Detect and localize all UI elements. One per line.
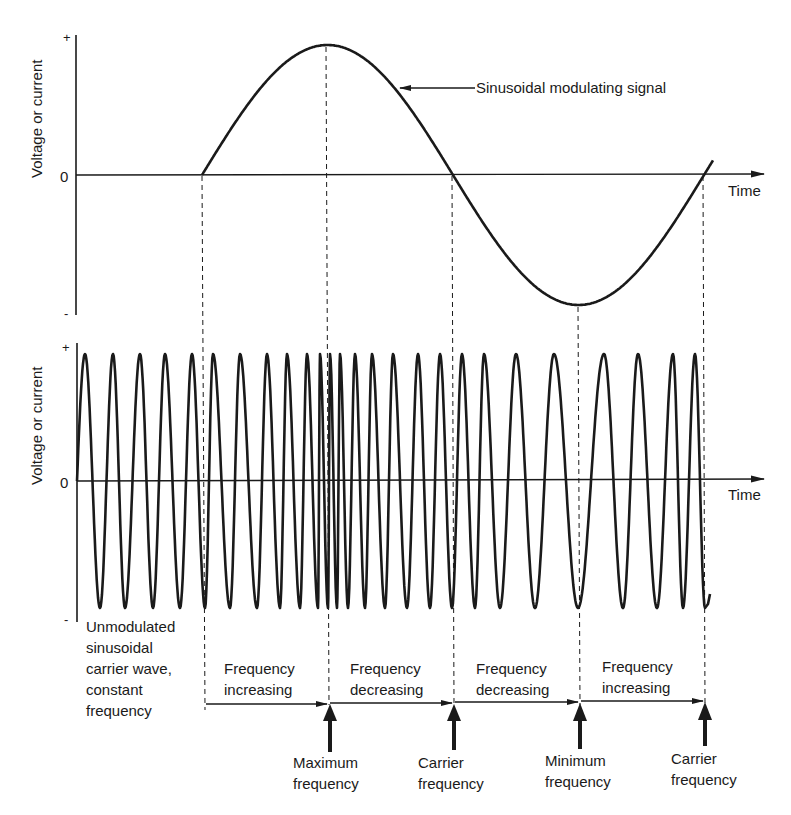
bottom-y-axis-label: Voltage or current bbox=[28, 366, 45, 485]
segment-labels: Frequency increasing Frequency decreasin… bbox=[224, 658, 673, 698]
segment-arrows bbox=[206, 701, 703, 704]
note-line-1: Unmodulated bbox=[86, 618, 175, 635]
marker-labels: Maximum frequency Carrier frequency Mini… bbox=[293, 750, 737, 792]
marker-arrows bbox=[323, 702, 712, 752]
unmodulated-note: Unmodulated sinusoidal carrier wave, con… bbox=[86, 618, 175, 719]
segment-1-line-2: increasing bbox=[224, 681, 292, 698]
marker-2-line-2: frequency bbox=[418, 775, 484, 792]
segment-1-line-1: Frequency bbox=[224, 660, 295, 677]
segment-4-line-2: increasing bbox=[602, 679, 670, 696]
top-tick-minus: - bbox=[64, 306, 68, 321]
top-y-axis-label: Voltage or current bbox=[28, 59, 45, 178]
annotation-label: Sinusoidal modulating signal bbox=[476, 79, 666, 96]
top-tick-plus: + bbox=[63, 30, 71, 45]
guide-line-1 bbox=[202, 176, 205, 710]
guide-line-4 bbox=[578, 307, 580, 705]
note-line-5: frequency bbox=[86, 702, 152, 719]
note-line-3: carrier wave, bbox=[86, 660, 172, 677]
marker-1-line-1: Maximum bbox=[293, 754, 358, 771]
top-x-axis bbox=[76, 174, 764, 175]
marker-1-line-2: frequency bbox=[293, 775, 359, 792]
guide-lines bbox=[202, 47, 705, 710]
bottom-tick-zero: 0 bbox=[60, 474, 68, 491]
bottom-tick-minus: - bbox=[64, 612, 68, 627]
segment-2-line-2: decreasing bbox=[350, 681, 423, 698]
bottom-x-axis-label: Time bbox=[728, 486, 761, 503]
marker-arrow-1 bbox=[323, 704, 337, 752]
segment-2-line-1: Frequency bbox=[350, 660, 421, 677]
marker-2-line-1: Carrier bbox=[418, 754, 464, 771]
marker-3-line-1: Minimum bbox=[545, 752, 606, 769]
guide-line-3 bbox=[452, 176, 454, 705]
top-tick-zero: 0 bbox=[60, 168, 68, 185]
marker-arrow-2 bbox=[447, 704, 461, 750]
marker-3-line-2: frequency bbox=[545, 773, 611, 790]
note-line-4: constant bbox=[86, 681, 144, 698]
segment-3-line-1: Frequency bbox=[476, 660, 547, 677]
marker-arrow-4 bbox=[698, 702, 712, 746]
marker-arrow-3 bbox=[573, 703, 587, 749]
bottom-tick-plus: + bbox=[62, 340, 70, 355]
bottom-x-axis bbox=[77, 479, 764, 481]
note-line-2: sinusoidal bbox=[86, 639, 153, 656]
guide-line-5 bbox=[703, 176, 705, 705]
fm-carrier-wave bbox=[77, 354, 710, 608]
top-x-axis-label: Time bbox=[728, 182, 761, 199]
marker-4-line-2: frequency bbox=[671, 771, 737, 788]
segment-3-line-2: decreasing bbox=[476, 681, 549, 698]
top-panel: Voltage or current + 0 - Time Sinusoidal… bbox=[28, 30, 764, 321]
bottom-panel: Voltage or current + 0 - Time bbox=[28, 340, 764, 627]
marker-4-line-1: Carrier bbox=[671, 750, 717, 767]
fm-diagram: Voltage or current + 0 - Time Sinusoidal… bbox=[0, 0, 791, 815]
segment-4-line-1: Frequency bbox=[602, 658, 673, 675]
